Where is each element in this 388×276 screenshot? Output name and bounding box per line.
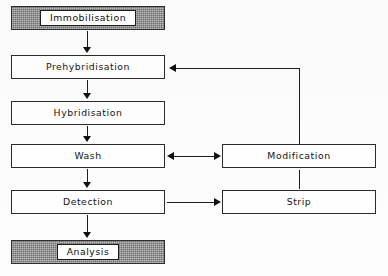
edge-line bbox=[87, 80, 88, 94]
node-modification-label: Modification bbox=[267, 151, 330, 160]
node-immobilisation-inner: Immobilisation bbox=[40, 10, 136, 25]
arrow-down-icon bbox=[83, 47, 91, 53]
arrow-left-icon bbox=[167, 152, 174, 160]
node-wash[interactable]: Wash bbox=[11, 144, 165, 168]
arrow-right-icon bbox=[214, 198, 221, 206]
edge-line bbox=[87, 31, 88, 48]
flowchart-diagram: Immobilisation Prehybridisation Hybridis… bbox=[0, 0, 388, 276]
node-immobilisation-label: Immobilisation bbox=[50, 13, 126, 22]
arrow-down-icon bbox=[83, 93, 91, 99]
arrow-down-icon bbox=[83, 136, 91, 142]
node-modification[interactable]: Modification bbox=[222, 144, 376, 168]
node-strip-label: Strip bbox=[287, 197, 312, 206]
node-analysis[interactable]: Analysis bbox=[11, 240, 165, 264]
edge-line bbox=[87, 215, 88, 233]
edge-line bbox=[87, 169, 88, 183]
node-analysis-inner: Analysis bbox=[57, 244, 120, 259]
node-prehybridisation[interactable]: Prehybridisation bbox=[11, 55, 165, 79]
arrow-left-icon bbox=[169, 64, 176, 72]
node-immobilisation[interactable]: Immobilisation bbox=[11, 6, 165, 30]
node-wash-label: Wash bbox=[74, 151, 101, 160]
node-hybridisation-label: Hybridisation bbox=[54, 108, 123, 117]
edge-line bbox=[167, 202, 216, 203]
arrow-down-icon bbox=[83, 232, 91, 238]
node-analysis-label: Analysis bbox=[67, 247, 110, 256]
arrow-right-icon bbox=[214, 152, 221, 160]
node-strip[interactable]: Strip bbox=[222, 190, 376, 214]
arrow-down-icon bbox=[83, 182, 91, 188]
edge-line-horizontal bbox=[176, 68, 300, 69]
node-detection[interactable]: Detection bbox=[11, 190, 165, 214]
edge-line bbox=[172, 156, 216, 157]
node-detection-label: Detection bbox=[63, 197, 113, 206]
node-prehybridisation-label: Prehybridisation bbox=[46, 62, 130, 71]
edge-line bbox=[299, 170, 300, 189]
edge-line-vertical bbox=[299, 68, 300, 144]
node-hybridisation[interactable]: Hybridisation bbox=[11, 101, 165, 125]
